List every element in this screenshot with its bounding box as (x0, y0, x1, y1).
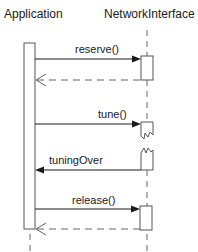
application-activation-bar (24, 43, 35, 229)
filled-arrowhead-icon (132, 56, 141, 63)
message-release: release() (35, 194, 140, 213)
return-message-1 (36, 74, 141, 86)
filled-arrowhead-icon (35, 167, 44, 174)
message-reserve: reserve() (35, 43, 141, 63)
message-label-release: release() (72, 194, 115, 206)
network-activation-tune-torn (141, 122, 153, 139)
network-activation-release (140, 206, 152, 230)
message-tuningover: tuningOver (35, 154, 141, 174)
message-label-reserve: reserve() (75, 43, 119, 55)
return-message-2 (36, 223, 140, 235)
filled-arrowhead-icon (131, 206, 140, 213)
sequence-diagram: Application NetworkInterface reserve() t… (0, 0, 198, 252)
message-label-tuningover: tuningOver (49, 154, 103, 166)
network-activation-reserve (141, 56, 153, 80)
filled-arrowhead-icon (132, 121, 141, 128)
message-tune: tune() (35, 108, 141, 128)
participant-application-label: Application (4, 7, 63, 21)
participant-network-label: NetworkInterface (104, 7, 195, 21)
network-activation-tuningover-torn (141, 148, 153, 170)
message-label-tune: tune() (98, 108, 127, 120)
